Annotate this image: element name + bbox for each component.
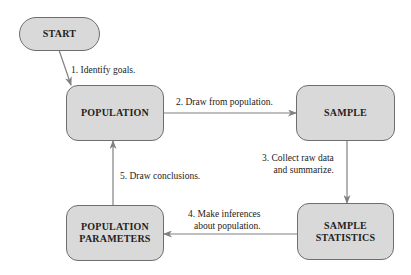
step3-label: 3. Collect raw data and summarize.	[262, 152, 334, 176]
step4-line1: 4. Make inferences	[188, 208, 261, 220]
sample-label: SAMPLE	[324, 107, 367, 119]
step3-line1: 3. Collect raw data	[262, 152, 334, 164]
step4-line2: about population.	[188, 220, 261, 232]
sample-statistics-node: SAMPLE STATISTICS	[297, 203, 394, 260]
step1-label: 1. Identify goals.	[71, 64, 135, 76]
step3-line2: and summarize.	[262, 164, 334, 176]
arrow-start-to-population	[59, 50, 71, 85]
population-parameters-line1: POPULATION	[81, 221, 149, 233]
sample-statistics-line2: STATISTICS	[316, 232, 375, 244]
population-label: POPULATION	[81, 107, 149, 119]
population-node: POPULATION	[66, 85, 164, 141]
step5-label: 5. Draw conclusions.	[120, 170, 200, 182]
start-node: START	[19, 17, 100, 51]
start-label: START	[43, 28, 76, 40]
sample-node: SAMPLE	[296, 85, 395, 141]
population-parameters-line2: PARAMETERS	[79, 233, 150, 245]
step4-label: 4. Make inferences about population.	[188, 208, 261, 232]
step2-label: 2. Draw from population.	[176, 96, 273, 108]
sample-statistics-line1: SAMPLE	[324, 220, 367, 232]
population-parameters-node: POPULATION PARAMETERS	[66, 205, 164, 261]
